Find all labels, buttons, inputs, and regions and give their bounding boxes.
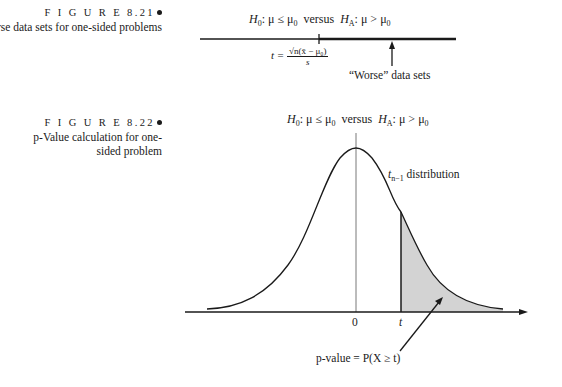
p-value-label: p-value = P(X ≥ t) — [316, 352, 400, 364]
up-arrow-icon — [389, 41, 395, 49]
distribution-label: tn−1 distribution — [388, 168, 460, 180]
figure-821-number-line — [200, 34, 456, 66]
p-value-shaded-region — [401, 212, 503, 312]
figures-graphics — [0, 0, 562, 387]
axis-tick-t: t — [399, 316, 402, 328]
x-axis-arrow-icon — [519, 309, 528, 315]
axis-tick-zero: 0 — [352, 316, 358, 328]
